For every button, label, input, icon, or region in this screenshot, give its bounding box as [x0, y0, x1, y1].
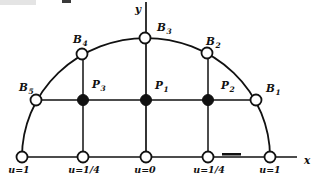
- x-axis-label: x: [303, 154, 311, 166]
- axis-dash-mark: [222, 153, 241, 156]
- y-axis-label: y: [134, 3, 142, 15]
- label-P3: P3: [91, 78, 106, 93]
- label-B4: B4: [72, 33, 88, 48]
- boundary-node-B5: [31, 95, 42, 106]
- boundary-node-B4: [77, 49, 88, 60]
- bottom-node-u14-right: [203, 152, 214, 163]
- scan-smudge-top: [62, 0, 71, 3]
- label-P2: P2: [220, 79, 235, 94]
- bottom-node-u0: [141, 152, 152, 163]
- interior-node-P1: [141, 95, 152, 106]
- value-u14-left: u=1/4: [68, 164, 100, 175]
- label-B1: B1: [265, 82, 281, 97]
- figure-page: B5B4B3B2B1P3P1P2u=1u=1/4u=0u=1/4u=1yx: [0, 0, 319, 183]
- bottom-node-u1-right: [265, 152, 276, 163]
- scan-faint-bar-top: [0, 0, 36, 5]
- interior-node-P2: [203, 95, 214, 106]
- value-u0: u=0: [134, 164, 156, 175]
- label-B5: B5: [18, 81, 34, 96]
- value-u1-right: u=1: [259, 164, 280, 175]
- bottom-node-u14-left: [78, 152, 89, 163]
- label-B3: B3: [156, 21, 172, 36]
- bottom-node-u1-left: [17, 152, 28, 163]
- interior-node-P3: [78, 95, 89, 106]
- label-P1: P1: [154, 79, 169, 94]
- semicircle-grid-diagram: B5B4B3B2B1P3P1P2u=1u=1/4u=0u=1/4u=1yx: [0, 0, 319, 183]
- value-u1-left: u=1: [8, 164, 29, 175]
- boundary-node-B2: [202, 48, 213, 59]
- boundary-node-B3: [140, 33, 151, 44]
- value-u14-right: u=1/4: [193, 164, 225, 175]
- boundary-node-B1: [251, 95, 262, 106]
